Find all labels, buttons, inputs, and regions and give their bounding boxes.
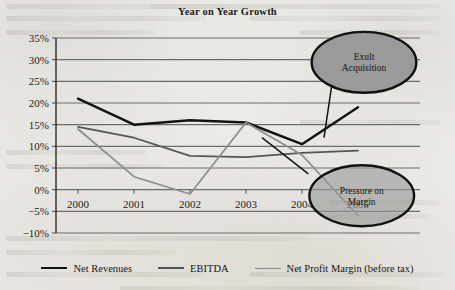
x-axis-tick-label: 2002 (179, 198, 201, 210)
legend-label-ebitda: EBITDA (190, 263, 229, 274)
callout-ellipse-pressure-on-margin (309, 165, 414, 226)
callout-text-exult-acquisition: Acquisition (342, 63, 387, 73)
y-axis-tick-label: 5% (34, 162, 49, 174)
legend-label-net-profit-margin: Net Profit Margin (before tax) (287, 263, 414, 274)
y-axis-tick-label: 15% (29, 119, 49, 131)
legend-item-ebitda: EBITDA (158, 263, 229, 274)
x-axis-tick-label: 2003 (235, 198, 258, 210)
legend-swatch-net-revenues (41, 267, 67, 269)
y-axis-tick-label: 10% (29, 140, 49, 152)
callout-text-pressure-on-margin: Margin (348, 197, 376, 207)
series-line-net-revenues (78, 99, 358, 145)
chart-container: Year on Year Growth 35%30%25%20%15%10%5%… (0, 0, 455, 290)
y-axis-tick-label: 25% (29, 75, 49, 87)
legend-swatch-ebitda (158, 267, 184, 269)
y-axis-tick-label: 20% (29, 97, 49, 109)
y-axis-tick-label: −10% (23, 227, 49, 239)
legend-swatch-net-profit-margin (255, 268, 281, 269)
legend-label-net-revenues: Net Revenues (73, 263, 132, 274)
x-axis-tick-label: 2001 (123, 198, 145, 210)
series-line-ebitda (78, 127, 358, 157)
legend-item-net-revenues: Net Revenues (41, 263, 132, 274)
chart-plot-area: 35%30%25%20%15%10%5%0%−5%−10% 2000200120… (0, 0, 455, 290)
y-axis-tick-label: −5% (28, 205, 49, 217)
y-axis-tick-label: 30% (29, 54, 49, 66)
y-axis-tick-labels: 35%30%25%20%15%10%5%0%−5%−10% (23, 32, 49, 239)
chart-legend: Net Revenues EBITDA Net Profit Margin (b… (0, 258, 455, 278)
legend-item-net-profit-margin: Net Profit Margin (before tax) (255, 263, 414, 274)
callout-text-pressure-on-margin: Pressure on (340, 186, 384, 196)
callout-text-exult-acquisition: Exult (354, 52, 375, 62)
annotation-callouts: ExultAcquisitionPressure onMargin (262, 32, 416, 226)
y-axis-tick-label: 0% (34, 184, 49, 196)
y-axis-tick-label: 35% (29, 32, 49, 44)
x-axis-tick-label: 2000 (67, 198, 90, 210)
